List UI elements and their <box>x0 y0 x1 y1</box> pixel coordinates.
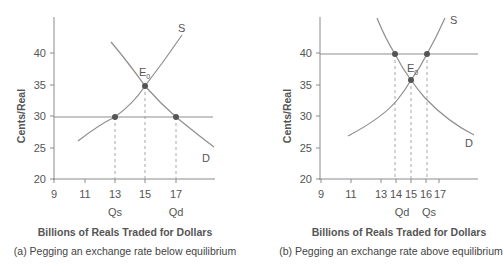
y-tick-label: 30 <box>300 110 312 122</box>
chart-b-qd-label: Qd <box>395 206 410 218</box>
x-tick-label: 11 <box>79 188 90 200</box>
y-tick-label: 35 <box>34 79 46 91</box>
x-tick-label: 13 <box>375 188 387 200</box>
chart-b-x-ticks: 9 11 13 14 15 16 17 <box>318 179 446 200</box>
chart-a-qs-point <box>112 114 118 120</box>
x-tick-label: 17 <box>170 188 182 200</box>
chart-b-d-label: D <box>465 137 473 149</box>
y-tick-label: 20 <box>300 173 312 185</box>
chart-b-s-label: S <box>450 14 457 26</box>
y-tick-label: 35 <box>300 79 312 91</box>
chart-b-qd-point <box>392 51 398 57</box>
figure: 40 35 30 25 20 9 11 13 15 17 <box>0 0 503 265</box>
y-tick-label: 25 <box>300 142 312 154</box>
chart-a-d-label: D <box>202 152 210 164</box>
x-tick-label: 9 <box>51 188 57 200</box>
chart-a: 40 35 30 25 20 9 11 13 15 17 <box>14 17 237 257</box>
chart-a-qs-label: Qs <box>108 206 123 218</box>
y-tick-label: 40 <box>300 47 312 59</box>
y-tick-label: 40 <box>34 47 46 59</box>
chart-a-y-ticks: 40 35 30 25 20 <box>34 47 54 185</box>
chart-b-equilibrium-point <box>408 77 414 83</box>
x-tick-label: 15 <box>405 188 417 200</box>
x-tick-label: 17 <box>434 188 446 200</box>
chart-a-demand-curve <box>111 42 214 147</box>
chart-b-y-axis-title: Cents/Real <box>281 89 293 143</box>
chart-b-caption: (b) Pegging an exchange rate above equil… <box>279 245 503 257</box>
chart-a-y-axis-title: Cents/Real <box>15 89 27 143</box>
chart-b-qs-point <box>424 51 430 57</box>
x-tick-label: 14 <box>390 188 402 200</box>
chart-b-eq-label: E0 <box>407 62 418 76</box>
chart-a-x-axis-title: Billions of Reals Traded for Dollars <box>38 226 213 238</box>
chart-a-qd-point <box>173 114 179 120</box>
y-tick-label: 25 <box>34 142 46 154</box>
chart-b: 40 35 30 25 20 9 11 13 14 15 16 17 <box>279 14 503 257</box>
chart-a-caption: (a) Pegging an exchange rate below equil… <box>14 245 237 257</box>
x-tick-label: 9 <box>318 188 324 200</box>
x-tick-label: 11 <box>345 188 356 200</box>
x-tick-label: 15 <box>139 188 151 200</box>
chart-b-demand-curve <box>377 18 474 135</box>
chart-a-eq-label: E0 <box>139 66 150 80</box>
chart-a-qd-label: Qd <box>169 206 184 218</box>
chart-b-supply-curve <box>348 18 445 136</box>
y-tick-label: 20 <box>34 173 46 185</box>
chart-a-equilibrium-point <box>142 83 148 89</box>
x-tick-label: 13 <box>109 188 121 200</box>
chart-a-s-label: S <box>178 22 185 34</box>
chart-a-supply-curve <box>78 35 182 141</box>
chart-b-qs-label: Qs <box>422 206 437 218</box>
chart-b-y-ticks: 40 35 30 25 20 <box>300 47 320 185</box>
chart-b-x-axis-title: Billions of Reals Traded for Dollars <box>312 226 487 238</box>
chart-a-x-ticks: 9 11 13 15 17 <box>51 179 182 200</box>
y-tick-label: 30 <box>34 110 46 122</box>
x-tick-label: 16 <box>420 188 432 200</box>
